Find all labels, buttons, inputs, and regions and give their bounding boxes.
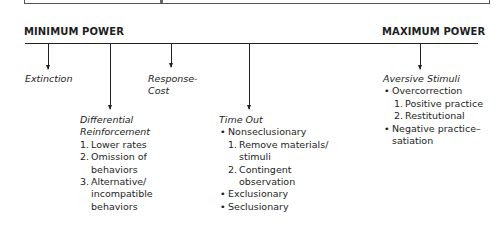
arrow-differential-reinforcement bbox=[110, 44, 111, 109]
minimum-power-label: MINIMUM POWER bbox=[24, 26, 124, 37]
aversive-sublist: 1. Positive practice 2. Restitutional bbox=[392, 98, 483, 123]
header-box bbox=[24, 0, 490, 4]
list-item: 3. Alternative/ incompatible behaviors bbox=[80, 176, 153, 213]
list-item: • Overcorrection 1. Positive practice 2.… bbox=[383, 85, 483, 122]
node-differential-reinforcement: Differential Reinforcement 1. Lower rate… bbox=[80, 114, 153, 213]
bullet-icon: • bbox=[220, 201, 226, 213]
time-out-title: Time Out bbox=[219, 114, 328, 126]
node-time-out: Time Out • Nonseclusionary 1. Remove mat… bbox=[219, 114, 328, 213]
node-extinction: Extinction bbox=[25, 73, 72, 85]
list-item: 2. Omission of behaviors bbox=[80, 151, 153, 176]
arrow-time-out bbox=[249, 44, 250, 109]
time-out-sublist: 1. Remove materials/ stimuli 2. Continge… bbox=[228, 139, 328, 189]
differential-title-line1: Differential bbox=[80, 114, 153, 126]
arrow-aversive-stimuli bbox=[420, 44, 421, 69]
bullet-icon: • bbox=[220, 126, 226, 138]
node-response-cost: Response- Cost bbox=[148, 73, 197, 98]
clipped-text-fragment bbox=[160, 0, 163, 3]
list-item: 2. Contingent observation bbox=[228, 164, 328, 189]
time-out-list: • Nonseclusionary 1. Remove materials/ s… bbox=[219, 126, 328, 213]
response-cost-title-line2: Cost bbox=[148, 85, 197, 97]
list-item: • Nonseclusionary 1. Remove materials/ s… bbox=[219, 126, 328, 188]
aversive-list: • Overcorrection 1. Positive practice 2.… bbox=[383, 85, 483, 147]
arrow-response-cost bbox=[171, 44, 172, 67]
extinction-title: Extinction bbox=[25, 73, 72, 85]
list-item: 1. Positive practice bbox=[394, 98, 483, 110]
bullet-icon: • bbox=[384, 123, 390, 135]
bullet-icon: • bbox=[384, 85, 390, 97]
bullet-icon: • bbox=[220, 188, 226, 200]
maximum-power-label: MAXIMUM POWER bbox=[382, 26, 485, 37]
node-aversive-stimuli: Aversive Stimuli • Overcorrection 1. Pos… bbox=[383, 73, 483, 147]
list-item: 1. Lower rates bbox=[80, 139, 153, 151]
list-item: • Seclusionary bbox=[219, 201, 328, 213]
list-item: 1. Remove materials/ stimuli bbox=[228, 139, 328, 164]
differential-list: 1. Lower rates 2. Omission of behaviors … bbox=[80, 139, 153, 213]
list-item: 2. Restitutional bbox=[394, 110, 483, 122]
power-continuum-line bbox=[25, 43, 478, 44]
arrow-extinction bbox=[48, 44, 49, 69]
aversive-stimuli-title: Aversive Stimuli bbox=[383, 73, 483, 85]
list-item: • Exclusionary bbox=[219, 188, 328, 200]
differential-title-line2: Reinforcement bbox=[80, 126, 153, 138]
response-cost-title-line1: Response- bbox=[148, 73, 197, 85]
list-item: • Negative practice– satiation bbox=[383, 123, 483, 148]
